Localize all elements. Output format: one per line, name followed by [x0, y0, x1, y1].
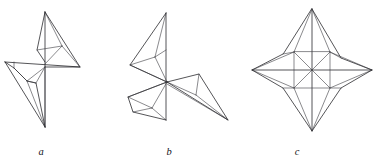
figure-b-caption: b: [166, 146, 171, 157]
figure-plate: a b c: [0, 0, 378, 166]
figure-a-caption: a: [38, 146, 43, 157]
figure-c-caption: c: [295, 146, 300, 157]
figures-canvas: a b c: [0, 0, 378, 166]
